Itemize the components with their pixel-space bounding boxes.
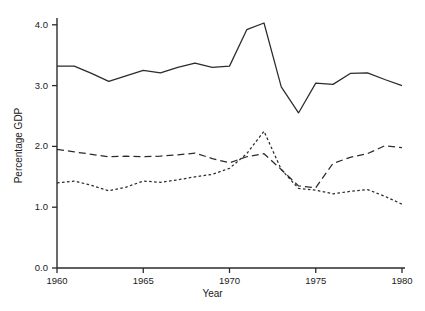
series-line-short-dashed <box>57 131 402 204</box>
y-tick-label: 3.0 <box>22 80 48 91</box>
data-series-group <box>57 23 402 204</box>
y-tick-label: 1.0 <box>22 201 48 212</box>
y-tick-label: 4.0 <box>22 19 48 30</box>
x-axis-ticks <box>57 268 402 273</box>
chart-figure: 0.01.02.03.04.0 19601965197019751980 Yea… <box>0 0 425 311</box>
series-line-long-dashed <box>57 146 402 188</box>
y-axis-ticks <box>52 25 57 268</box>
x-axis-label: Year <box>0 288 425 299</box>
x-tick-label: 1975 <box>296 275 336 286</box>
x-tick-label: 1965 <box>123 275 163 286</box>
y-tick-label: 0.0 <box>22 262 48 273</box>
plot-area <box>0 0 425 311</box>
y-axis-label: Percentage GDP <box>13 81 24 211</box>
x-tick-label: 1980 <box>382 275 422 286</box>
x-tick-label: 1960 <box>37 275 77 286</box>
axis-lines <box>57 18 405 268</box>
series-line-solid <box>57 23 402 113</box>
x-tick-label: 1970 <box>210 275 250 286</box>
y-tick-label: 2.0 <box>22 140 48 151</box>
